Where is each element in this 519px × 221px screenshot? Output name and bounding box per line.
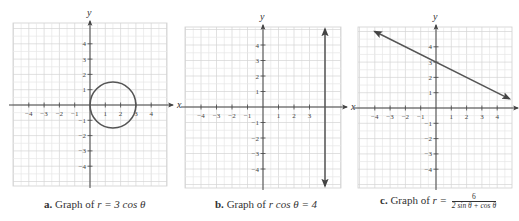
x-tick-label: 1 — [450, 113, 454, 121]
caption-c-letter: c. — [380, 194, 388, 206]
y-tick-label: −3 — [425, 150, 433, 158]
y-tick-label: 2 — [429, 74, 433, 82]
y-tick-label: −1 — [425, 120, 433, 128]
caption-b-equation: r cos θ = 4 — [269, 198, 317, 210]
fraction-denominator: 2 sin θ + cos θ — [452, 202, 496, 210]
caption-a-letter: a. — [44, 198, 52, 210]
graph-c: xy−4−3−2−11234−4−3−2−11234 — [0, 0, 519, 221]
y-tick-label: 1 — [429, 89, 433, 97]
x-tick-label: −2 — [402, 113, 410, 121]
caption-b-letter: b. — [215, 198, 224, 210]
caption-c-equation: r = — [433, 194, 447, 206]
caption-a-text: Graph of — [55, 198, 97, 210]
y-tick-label: −4 — [425, 166, 433, 174]
x-tick-label: −4 — [371, 113, 379, 121]
y-tick-label: −2 — [425, 135, 433, 143]
caption-a: a. Graph of r = 3 cos θ — [44, 198, 145, 210]
x-tick-label: 3 — [480, 113, 484, 121]
x-tick-label: −3 — [386, 113, 394, 121]
caption-c-text: Graph of — [390, 194, 432, 206]
caption-c: c. Graph of r = 6 2 sin θ + cos θ — [380, 193, 496, 210]
caption-c-fraction: 6 2 sin θ + cos θ — [452, 193, 496, 210]
x-tick-label: 4 — [495, 113, 499, 121]
y-tick-label: 4 — [429, 43, 433, 51]
y-axis-label: y — [432, 11, 438, 22]
x-tick-label: 2 — [465, 113, 469, 121]
caption-b: b. Graph of r cos θ = 4 — [215, 198, 317, 210]
caption-a-equation: r = 3 cos θ — [97, 198, 145, 210]
caption-b-text: Graph of — [227, 198, 269, 210]
